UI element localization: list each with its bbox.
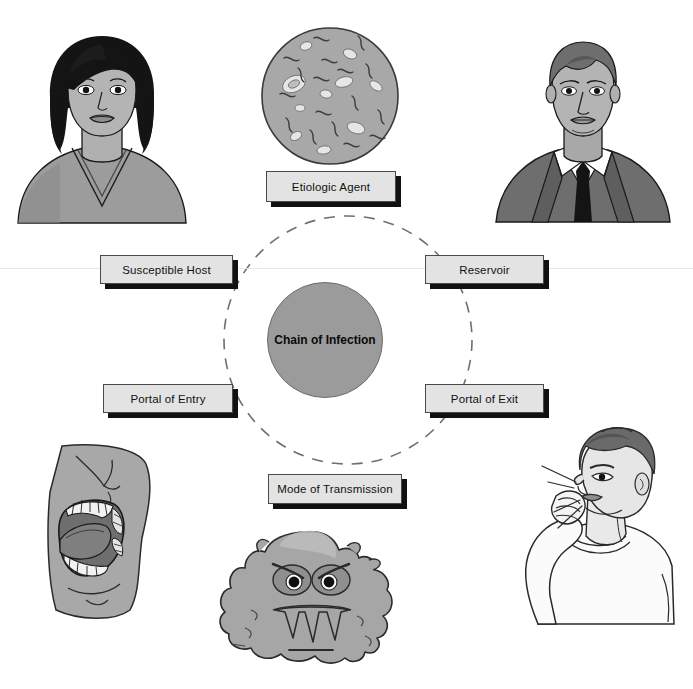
diagram-canvas: Chain of Infection Etiologic Agent Reser… [0, 0, 693, 689]
node-label-portal-of-entry: Portal of Entry [130, 393, 205, 405]
node-label-portal-of-exit: Portal of Exit [451, 393, 518, 405]
node-label-mode-of-transmission: Mode of Transmission [277, 483, 393, 495]
node-label-etiologic-agent: Etiologic Agent [292, 181, 370, 193]
node-portal-of-exit[interactable]: Portal of Exit [425, 384, 544, 413]
node-label-reservoir: Reservoir [459, 264, 510, 276]
node-portal-of-entry[interactable]: Portal of Entry [103, 384, 233, 413]
node-mode-of-transmission[interactable]: Mode of Transmission [268, 474, 402, 504]
node-susceptible-host[interactable]: Susceptible Host [100, 255, 233, 284]
node-etiologic-agent[interactable]: Etiologic Agent [266, 171, 396, 202]
node-label-susceptible-host: Susceptible Host [122, 264, 211, 276]
chain-of-infection-hub: Chain of Infection [267, 282, 383, 398]
node-reservoir[interactable]: Reservoir [425, 255, 544, 284]
hub-label: Chain of Infection [274, 333, 375, 347]
